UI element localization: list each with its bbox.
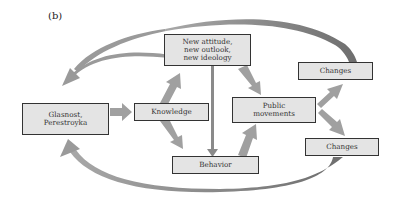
node-knowledge-label: Knowledge [151, 108, 192, 116]
node-changes-bottom: Changes [305, 138, 379, 156]
arrow-public-changes-bottom [318, 109, 345, 136]
feedback-diagram: (b) Glasnost, Perestroyka Knowledge New … [0, 0, 398, 209]
node-public-movements: Public movements [232, 97, 316, 123]
node-glasnost-line-2: Perestroyka [44, 119, 88, 127]
arrow-glasnost-knowledge [110, 103, 132, 121]
node-new-attitude: New attitude, new outlook, new ideology [164, 34, 251, 66]
arrow-behavior-public [238, 124, 257, 158]
node-public-line-2: movements [253, 110, 295, 118]
node-changes-bottom-label: Changes [326, 143, 358, 151]
node-glasnost-perestroyka: Glasnost, Perestroyka [22, 103, 109, 135]
node-behavior: Behavior [172, 156, 259, 174]
node-attitude-line-3: new ideology [183, 54, 233, 62]
arrow-attitude-public [238, 65, 261, 95]
panel-label: (b) [48, 10, 62, 21]
node-knowledge: Knowledge [134, 103, 209, 121]
node-behavior-label: Behavior [199, 161, 232, 169]
arrow-knowledge-attitude [160, 73, 181, 106]
node-changes-top-label: Changes [320, 67, 352, 75]
arrow-knowledge-behavior [160, 117, 183, 149]
arrow-public-changes-top [317, 84, 343, 108]
node-changes-top: Changes [298, 62, 373, 80]
